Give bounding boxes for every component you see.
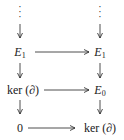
node-left-ker: ker (∂) xyxy=(7,84,39,96)
left-vertical-ellipsis: ··· xyxy=(18,4,21,19)
node-right-ker: ker (∂) xyxy=(84,122,116,134)
node-right-e1: E1 xyxy=(94,46,105,58)
node-left-e1-sub: 1 xyxy=(22,51,26,60)
node-right-e0-sub: 0 xyxy=(102,89,106,98)
node-left-e1: E1 xyxy=(14,46,25,58)
node-right-e1-sub: 1 xyxy=(102,51,106,60)
right-vertical-ellipsis: ··· xyxy=(98,4,101,19)
node-left-zero: 0 xyxy=(17,122,23,134)
node-right-e0: E0 xyxy=(94,84,105,96)
